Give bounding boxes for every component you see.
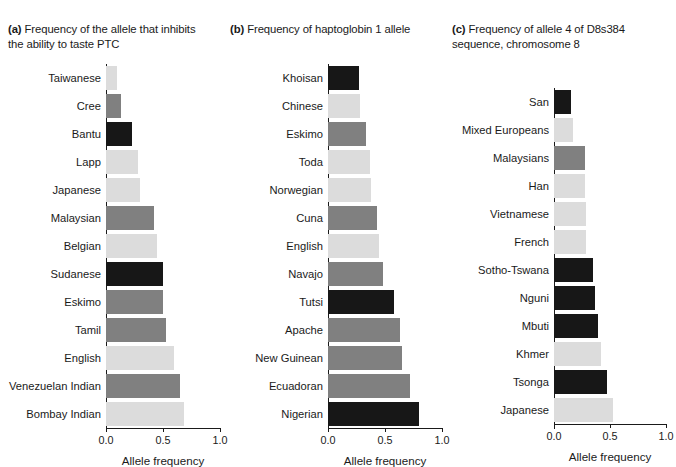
bar-row: Khmer [450,340,666,368]
bar-category-label: Sudanese [6,268,106,280]
x-axis-tick-label: 1.0 [658,430,673,442]
bar-row: Eskimo [228,120,442,148]
x-axis-tick-label: 0.5 [377,434,392,446]
bar [554,230,586,254]
bar-category-label: Malaysian [6,212,106,224]
bar-row: Bantu [6,120,220,148]
x-axis-tick [328,428,329,432]
bar-track [106,372,220,400]
bar-category-label: Nigerian [228,408,328,420]
bar-row: Malaysians [450,144,666,172]
bar-row: French [450,228,666,256]
bar-row: Sudanese [6,260,220,288]
bar-track [554,228,666,256]
bar-row: Nigerian [228,400,442,428]
bar-track [106,120,220,148]
x-axis-tick [163,428,164,432]
bar [106,402,184,426]
bar-row: Cree [6,92,220,120]
bar [106,94,121,118]
panel-b-axis-inner: Allele frequency 0.00.51.0 [328,428,442,467]
bar-row: Japanese [450,396,666,424]
bar-track [554,172,666,200]
bar-category-label: French [450,236,554,248]
x-axis-tick [106,428,107,432]
bar-track [554,284,666,312]
panel-b-title: (b) Frequency of haptoglobin 1 allele [230,22,430,37]
bar-track [328,204,442,232]
panel-c-rows: SanMixed EuropeansMalaysiansHanVietnames… [450,88,666,424]
bar-track [328,64,442,92]
bar-category-label: Vietnamese [450,208,554,220]
bar-row: Apache [228,316,442,344]
bar-category-label: Ecuadoran [228,380,328,392]
bar-category-label: Tsonga [450,376,554,388]
bar-category-label: Cuna [228,212,328,224]
bar-row: Vietnamese [450,200,666,228]
bar-track [328,316,442,344]
panel-b-rows: KhoisanChineseEskimoTodaNorwegianCunaEng… [228,64,442,428]
bar-category-label: Nguni [450,292,554,304]
bar-category-label: New Guinean [228,352,328,364]
bar-row: Eskimo [6,288,220,316]
panel-c-title-text: Frequency of allele 4 of D8s384 sequence… [452,23,625,50]
bar-row: Chinese [228,92,442,120]
bar [554,370,607,394]
bar-row: Taiwanese [6,64,220,92]
bar-category-label: Tamil [6,324,106,336]
panel-a-axis-inner: Allele frequency 0.00.51.0 [106,428,220,467]
bar-track [106,204,220,232]
panel-b-marker: (b) [230,23,244,35]
bar-row: Khoisan [228,64,442,92]
bar-track [328,120,442,148]
bar [328,346,402,370]
bar-track [328,400,442,428]
panel-a-title: (a) Frequency of the allele that inhibit… [8,22,213,51]
bar-track [106,148,220,176]
bar-track [554,116,666,144]
panel-b-axis-title: Allele frequency [328,454,442,467]
bar-track [328,148,442,176]
panel-c-axis: Allele frequency 0.00.51.0 [450,424,666,467]
bar [106,318,166,342]
bar-track [106,288,220,316]
bar [106,262,163,286]
x-axis-tick-label: 0.0 [320,434,335,446]
bar-track [554,396,666,424]
panel-a-title-text: Frequency of the allele that inhibits th… [8,23,195,50]
x-axis-tick [666,424,667,428]
bar-category-label: English [228,240,328,252]
bar-row: Venezuelan Indian [6,372,220,400]
bar-row: Ecuadoran [228,372,442,400]
bar-category-label: Japanese [6,184,106,196]
panel-b-title-text: Frequency of haptoglobin 1 allele [247,23,410,35]
bar [106,234,157,258]
bar-track [328,232,442,260]
bar-row: English [228,232,442,260]
bar-row: Han [450,172,666,200]
x-axis-tick-label: 0.5 [155,434,170,446]
bar-track [554,200,666,228]
bar [328,150,370,174]
panel-c-axis-inner: Allele frequency 0.00.51.0 [554,424,666,467]
bar [328,66,359,90]
bar-category-label: Navajo [228,268,328,280]
bar-row: Norwegian [228,176,442,204]
bar [554,258,593,282]
bar-category-label: Taiwanese [6,72,106,84]
bar [106,374,180,398]
bar-row: Belgian [6,232,220,260]
bar [554,146,585,170]
panel-b-plot: KhoisanChineseEskimoTodaNorwegianCunaEng… [228,64,442,467]
bar [328,290,394,314]
bar [328,402,419,426]
bar-row: Navajo [228,260,442,288]
bar-row: Nguni [450,284,666,312]
bar-category-label: Belgian [6,240,106,252]
x-axis-tick [610,424,611,428]
x-axis-tick [442,428,443,432]
x-axis-tick-label: 0.0 [98,434,113,446]
panel-c-plot: SanMixed EuropeansMalaysiansHanVietnames… [450,88,666,467]
bar-row: Bombay Indian [6,400,220,428]
bar-track [328,92,442,120]
